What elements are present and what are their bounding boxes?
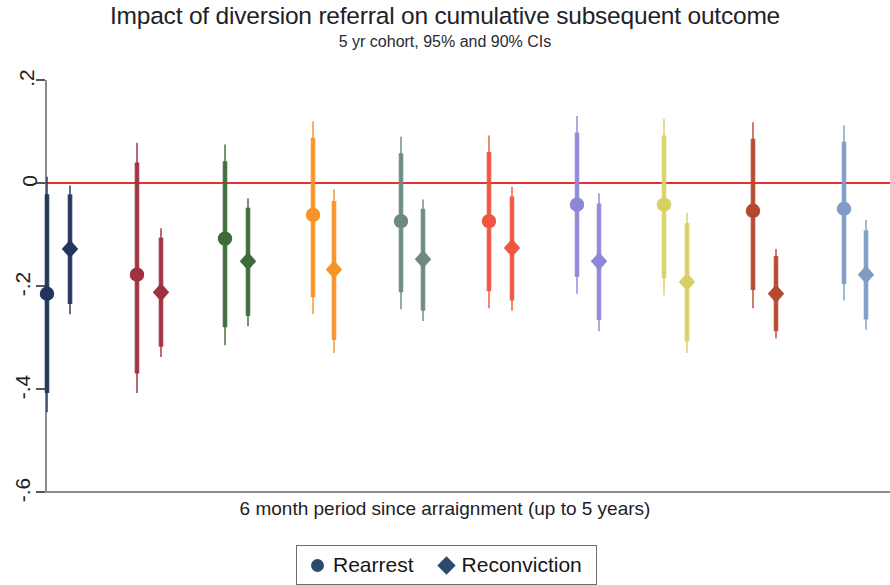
datapoint-group xyxy=(415,199,431,321)
reconviction-point-marker xyxy=(62,240,78,258)
y-axis-tick-label: -.2 xyxy=(0,272,36,296)
rearrest-point-marker xyxy=(482,214,496,228)
legend-label-reconviction: Reconviction xyxy=(462,553,582,577)
datapoint-group xyxy=(657,119,671,296)
rearrest-point-marker xyxy=(837,202,851,216)
datapoint-group xyxy=(153,228,169,357)
y-axis-tick-label-text: .2 xyxy=(15,69,39,87)
datapoint-group xyxy=(482,136,496,309)
rearrest-point-marker xyxy=(746,204,760,218)
chart-figure: Impact of diversion referral on cumulati… xyxy=(0,0,890,585)
y-axis-tick-label-text: -.2 xyxy=(12,272,36,297)
datapoint-group xyxy=(746,122,760,308)
y-axis-tick-label: .2 xyxy=(0,66,36,90)
rearrest-point-marker xyxy=(394,214,408,228)
legend-item-rearrest[interactable]: Rearrest xyxy=(311,553,414,577)
rearrest-point-marker xyxy=(570,197,584,211)
datapoint-group xyxy=(240,198,256,326)
rearrest-point-marker xyxy=(657,197,671,211)
reconviction-point-marker xyxy=(858,265,874,283)
rearrest-point-marker xyxy=(130,267,144,281)
circle-marker-icon xyxy=(311,559,324,572)
legend-label-rearrest: Rearrest xyxy=(333,553,414,577)
datapoint-group xyxy=(570,116,584,294)
reconviction-point-marker xyxy=(153,283,169,301)
reconviction-point-marker xyxy=(768,285,784,303)
chart-title: Impact of diversion referral on cumulati… xyxy=(0,2,890,30)
datapoint-group xyxy=(504,187,520,311)
data-markers-layer xyxy=(46,80,890,492)
reconviction-point-marker xyxy=(415,250,431,268)
y-axis-tick-label: -.4 xyxy=(0,375,36,399)
plot-area xyxy=(46,80,890,492)
reconviction-point-marker xyxy=(679,273,695,291)
datapoint-group xyxy=(837,125,851,300)
rearrest-point-marker xyxy=(40,287,54,301)
reconviction-point-marker xyxy=(326,260,342,278)
y-axis-tick-label: 0 xyxy=(0,169,36,193)
reconviction-point-marker xyxy=(504,239,520,257)
datapoint-group xyxy=(62,186,78,315)
legend-item-reconviction[interactable]: Reconviction xyxy=(440,553,582,577)
datapoint-group xyxy=(130,143,144,393)
chart-subtitle: 5 yr cohort, 95% and 90% CIs xyxy=(0,33,890,51)
y-axis-tick xyxy=(36,285,45,287)
rearrest-point-marker xyxy=(218,231,232,245)
datapoint-group xyxy=(768,249,784,339)
x-axis-title: 6 month period since arraignment (up to … xyxy=(0,498,890,520)
y-axis-tick-label-text: -.4 xyxy=(12,375,36,400)
datapoint-group xyxy=(326,189,342,353)
datapoint-group xyxy=(679,213,695,353)
reconviction-point-marker xyxy=(591,252,607,270)
reconviction-point-marker xyxy=(240,252,256,270)
datapoint-group xyxy=(306,121,320,314)
chart-legend: Rearrest Reconviction xyxy=(296,545,597,585)
y-axis-tick xyxy=(36,388,45,390)
y-axis-tick xyxy=(36,491,45,493)
rearrest-point-marker xyxy=(306,208,320,222)
datapoint-group xyxy=(218,144,232,345)
y-axis-tick-label-text: 0 xyxy=(18,175,42,187)
datapoint-group xyxy=(40,177,54,412)
datapoint-group xyxy=(858,220,874,330)
diamond-marker-icon xyxy=(437,556,455,574)
datapoint-group xyxy=(591,193,607,331)
datapoint-group xyxy=(394,137,408,310)
